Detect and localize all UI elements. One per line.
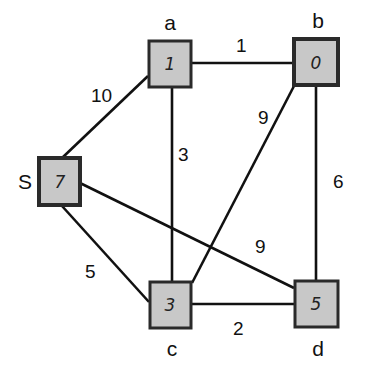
node-s-value: 7 (55, 172, 66, 192)
node-a-value: 1 (165, 54, 176, 74)
weight-s-d: 9 (255, 236, 266, 257)
node-s: 7 S (18, 158, 80, 205)
node-b: 0 b (294, 9, 338, 85)
edge-b-c (192, 86, 294, 283)
weight-s-a: 10 (91, 85, 112, 106)
node-a-label: a (164, 11, 176, 34)
graph-diagram: 1 10 3 9 6 9 5 2 1 a 0 b 7 S 3 c 5 d (0, 0, 366, 373)
node-c-label: c (167, 337, 178, 360)
node-d-label: d (312, 337, 324, 360)
node-c: 3 c (150, 282, 191, 360)
node-c-value: 3 (165, 295, 176, 315)
node-d: 5 d (295, 281, 338, 360)
weight-a-b: 1 (236, 35, 247, 56)
node-b-value: 0 (311, 53, 322, 73)
node-b-label: b (312, 9, 324, 32)
weight-a-c: 3 (178, 144, 189, 165)
node-a: 1 a (149, 11, 191, 87)
weight-b-d: 6 (333, 171, 344, 192)
node-d-value: 5 (311, 294, 322, 314)
edge-s-c (62, 206, 149, 302)
weight-s-c: 5 (85, 261, 96, 282)
weight-b-c: 9 (258, 107, 269, 128)
weight-c-d: 2 (233, 318, 244, 339)
node-s-label: S (18, 170, 32, 193)
